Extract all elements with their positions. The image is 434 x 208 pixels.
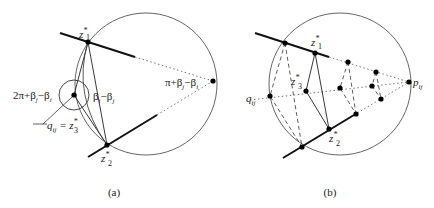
- middle-dotted-b: [250, 82, 409, 100]
- point-outer-top: [282, 40, 287, 45]
- point-z1-b: [312, 50, 317, 55]
- label-angle-outer: 2π+βj−βi: [13, 89, 52, 104]
- point-z2: [104, 142, 109, 147]
- point-mid-top: [345, 59, 350, 64]
- point-inner-center: [369, 83, 374, 88]
- point-outer-bottom: [299, 144, 304, 149]
- panel-b: z* 1 z* 3 z* 2 pij qij (b): [246, 13, 422, 199]
- label-z1-sub-b: 1: [318, 42, 322, 51]
- dashed-triangle-outer: [270, 43, 302, 147]
- point-q-b: [267, 93, 272, 98]
- label-z2-sub: 2: [108, 159, 112, 168]
- caption-b: (b): [324, 186, 337, 199]
- label-q-b: qij: [246, 92, 255, 107]
- point-z2-b: [326, 126, 331, 131]
- point-mid-bottom: [353, 111, 358, 116]
- label-z2-sub-b: 2: [336, 139, 340, 148]
- label-z3-sub-b: 3: [298, 82, 302, 91]
- point-inner-top: [373, 69, 378, 74]
- point-p: [210, 78, 215, 83]
- point-p-b: [406, 79, 411, 84]
- label-z1-sub: 1: [86, 33, 90, 42]
- point-inner-bottom: [378, 96, 383, 101]
- label-q-eq-z3-sub: 3: [74, 126, 78, 135]
- point-z3-b: [303, 88, 308, 93]
- label-angle-p: π+βj−βi: [165, 76, 198, 91]
- upper-thick-line: [60, 33, 135, 57]
- panel-a: z* 1 z* 2 2π+βj−βi βi−βj π+βj−βi qij = z…: [13, 13, 217, 199]
- label-p-b: pij: [412, 76, 422, 91]
- figure: z* 1 z* 2 2π+βj−βi βi−βj π+βj−βi qij = z…: [0, 0, 434, 208]
- upper-dotted-b: [329, 57, 409, 82]
- edge-z1-z3-b: [306, 53, 315, 91]
- point-q: [71, 92, 76, 97]
- label-angle-inner: βi−βj: [93, 90, 114, 105]
- point-mid-center: [337, 85, 342, 90]
- caption-a: (a): [108, 186, 121, 199]
